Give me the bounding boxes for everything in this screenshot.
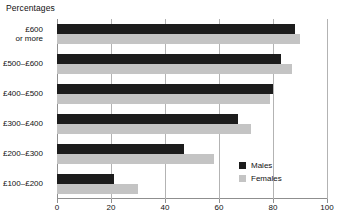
x-tick-label-100: 100 (320, 203, 333, 212)
legend-item-females: Females (239, 173, 282, 184)
category-label-line2: or more (15, 34, 43, 44)
gridline-20 (111, 19, 112, 199)
category-label-5: £100–£200 (3, 179, 43, 189)
plot-area: 020406080100 £600or more£500–£600£400–£5… (57, 19, 327, 199)
legend: MalesFemales (239, 160, 282, 186)
bar-females-1 (57, 64, 292, 74)
bar-males-1 (57, 54, 281, 64)
category-label-line1: £200–£300 (3, 149, 43, 159)
bar-females-3 (57, 124, 251, 134)
x-tick-label-60: 60 (215, 203, 224, 212)
category-label-3: £300–£400 (3, 119, 43, 129)
bar-males-3 (57, 114, 238, 124)
bar-males-0 (57, 24, 295, 34)
legend-label-females: Females (251, 174, 282, 183)
gridline-40 (165, 19, 166, 199)
category-label-1: £500–£600 (3, 59, 43, 69)
bar-females-0 (57, 34, 300, 44)
category-label-2: £400–£500 (3, 89, 43, 99)
legend-swatch-males (239, 162, 246, 169)
bar-males-4 (57, 144, 184, 154)
bar-females-4 (57, 154, 214, 164)
category-label-4: £200–£300 (3, 149, 43, 159)
bar-chart: Percentages 020406080100 £600or more£500… (0, 0, 337, 224)
chart-title: Percentages (6, 3, 55, 13)
x-tick-label-0: 0 (55, 203, 59, 212)
bar-males-2 (57, 84, 273, 94)
x-axis-line (57, 198, 327, 199)
x-tick-label-40: 40 (161, 203, 170, 212)
legend-label-males: Males (251, 161, 272, 170)
category-label-0: £600or more (15, 25, 43, 44)
bar-females-2 (57, 94, 270, 104)
category-label-line1: £400–£500 (3, 89, 43, 99)
category-label-line1: £500–£600 (3, 59, 43, 69)
category-label-line1: £300–£400 (3, 119, 43, 129)
legend-item-males: Males (239, 160, 282, 171)
x-tick-label-80: 80 (269, 203, 278, 212)
category-label-line1: £600 (15, 25, 43, 35)
gridline-60 (219, 19, 220, 199)
bar-males-5 (57, 174, 114, 184)
category-label-line1: £100–£200 (3, 179, 43, 189)
legend-swatch-females (239, 175, 246, 182)
y-axis-line (57, 19, 58, 199)
x-tick-label-20: 20 (107, 203, 116, 212)
bar-females-5 (57, 184, 138, 194)
gridline-100 (327, 19, 328, 199)
